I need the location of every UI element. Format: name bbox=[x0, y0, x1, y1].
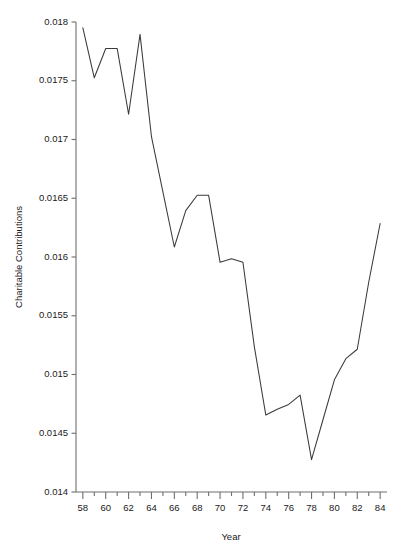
line-chart-canvas: 0.0140.01450.0150.01550.0160.01650.0170.… bbox=[0, 0, 413, 548]
y-axis-title: Charitable Contributions bbox=[13, 206, 24, 308]
x-tick-label: 64 bbox=[146, 502, 157, 513]
data-line-charitable-contributions bbox=[83, 28, 380, 460]
x-axis-title: Year bbox=[221, 531, 240, 542]
y-tick-label: 0.0155 bbox=[39, 309, 68, 320]
x-tick-label: 78 bbox=[306, 502, 317, 513]
y-tick-label: 0.016 bbox=[44, 251, 68, 262]
x-tick-label: 74 bbox=[261, 502, 272, 513]
x-tick-label: 68 bbox=[192, 502, 203, 513]
y-tick-label: 0.015 bbox=[44, 368, 68, 379]
x-tick-label: 80 bbox=[329, 502, 340, 513]
y-tick-label: 0.0175 bbox=[39, 74, 68, 85]
y-tick-label: 0.014 bbox=[44, 486, 68, 497]
data-series-group bbox=[83, 28, 380, 460]
y-tick-label: 0.0145 bbox=[39, 427, 68, 438]
y-tick-label: 0.0165 bbox=[39, 192, 68, 203]
x-tick-label: 84 bbox=[375, 502, 386, 513]
x-tick-label: 66 bbox=[169, 502, 180, 513]
x-tick-label: 72 bbox=[238, 502, 249, 513]
y-tick-label: 0.017 bbox=[44, 133, 68, 144]
x-tick-label: 76 bbox=[283, 502, 294, 513]
x-tick-label: 62 bbox=[123, 502, 134, 513]
x-tick-label: 60 bbox=[100, 502, 111, 513]
x-axis: 5860626466687072747678808284 bbox=[76, 492, 387, 513]
y-axis: 0.0140.01450.0150.01550.0160.01650.0170.… bbox=[39, 16, 76, 497]
y-tick-label: 0.018 bbox=[44, 16, 68, 27]
x-tick-label: 58 bbox=[78, 502, 89, 513]
x-tick-label: 70 bbox=[215, 502, 226, 513]
chart-figure: 0.0140.01450.0150.01550.0160.01650.0170.… bbox=[0, 0, 413, 548]
x-tick-label: 82 bbox=[352, 502, 363, 513]
